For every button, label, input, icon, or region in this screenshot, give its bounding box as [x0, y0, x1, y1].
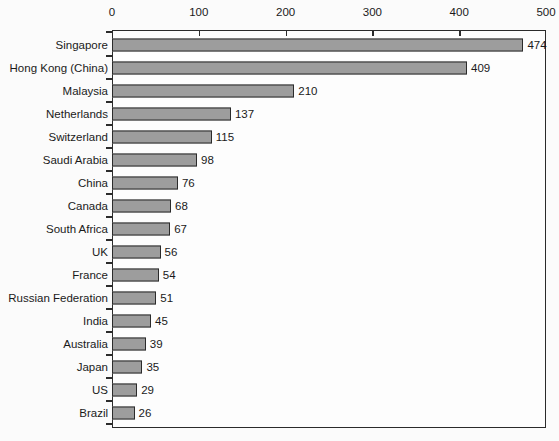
category-label: Australia [63, 337, 108, 350]
bar [112, 291, 156, 304]
x-axis-tick-label: 200 [276, 6, 295, 18]
category-label: Hong Kong (China) [10, 61, 108, 74]
bar [112, 153, 197, 166]
bar-row: France54 [0, 263, 559, 286]
category-label: China [78, 176, 108, 189]
bar-row: US29 [0, 378, 559, 401]
bar-value-label: 54 [163, 268, 176, 281]
bar-value-label: 26 [139, 406, 152, 419]
bar [112, 360, 142, 373]
category-label: India [83, 314, 108, 327]
bar [112, 383, 137, 396]
category-label: Japan [77, 360, 108, 373]
bar-row: Russian Federation51 [0, 286, 559, 309]
category-label: Singapore [56, 38, 108, 51]
x-axis-tick-label: 400 [450, 6, 469, 18]
x-axis-tick-label: 300 [363, 6, 382, 18]
bar-value-label: 68 [175, 199, 188, 212]
category-label: Netherlands [46, 107, 108, 120]
bar-value-label: 98 [201, 153, 214, 166]
bar-value-label: 67 [174, 222, 187, 235]
bar-value-label: 409 [471, 61, 490, 74]
bar-value-label: 39 [150, 337, 163, 350]
bar-row: Saudi Arabia98 [0, 148, 559, 171]
bar [112, 199, 171, 212]
bar-value-label: 29 [141, 383, 154, 396]
bar [112, 38, 523, 51]
bar [112, 222, 170, 235]
bar-value-label: 56 [165, 245, 178, 258]
x-axis-tick-label: 0 [109, 6, 115, 18]
bar-value-label: 137 [235, 107, 254, 120]
bar [112, 268, 159, 281]
bar-row: Switzerland115 [0, 125, 559, 148]
category-label: US [92, 383, 108, 396]
bar-row: UK56 [0, 240, 559, 263]
bar-row: Hong Kong (China)409 [0, 56, 559, 79]
bar-row: Brazil26 [0, 401, 559, 424]
bar [112, 406, 135, 419]
bar-row: Australia39 [0, 332, 559, 355]
bar-value-label: 35 [146, 360, 159, 373]
bar [112, 314, 151, 327]
category-label: Switzerland [49, 130, 108, 143]
bar-row: China76 [0, 171, 559, 194]
category-label: UK [92, 245, 108, 258]
category-label: Canada [68, 199, 108, 212]
bar-row: Malaysia210 [0, 79, 559, 102]
bar-value-label: 115 [216, 130, 234, 143]
bar [112, 337, 146, 350]
bar [112, 245, 161, 258]
bar-row: India45 [0, 309, 559, 332]
bar-chart: 0100200300400500 Singapore474Hong Kong (… [0, 0, 559, 441]
bar-row: Canada68 [0, 194, 559, 217]
x-axis-tick-label: 100 [189, 6, 208, 18]
bar [112, 130, 212, 143]
bar-row: Singapore474 [0, 33, 559, 56]
bar-value-label: 76 [182, 176, 195, 189]
bar [112, 107, 231, 120]
bar [112, 176, 178, 189]
bar-value-label: 45 [155, 314, 168, 327]
bar-row: South Africa67 [0, 217, 559, 240]
bar-row: Netherlands137 [0, 102, 559, 125]
bar [112, 61, 467, 74]
category-label: Saudi Arabia [43, 153, 108, 166]
category-label: Brazil [79, 406, 108, 419]
bar-value-label: 210 [298, 84, 317, 97]
category-label: South Africa [46, 222, 108, 235]
category-label: France [72, 268, 108, 281]
category-label: Russian Federation [8, 291, 108, 304]
bar-value-label: 474 [527, 38, 546, 51]
x-axis-tick-label: 500 [536, 6, 555, 18]
bar-value-label: 51 [160, 291, 173, 304]
category-label: Malaysia [63, 84, 108, 97]
bar-row: Japan35 [0, 355, 559, 378]
bar [112, 84, 294, 97]
